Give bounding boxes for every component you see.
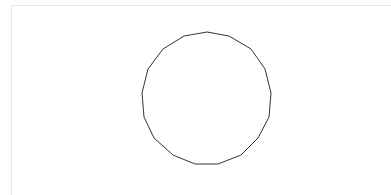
circle-polygon-shape[interactable] [142, 32, 271, 164]
drawing-surface [0, 0, 376, 181]
